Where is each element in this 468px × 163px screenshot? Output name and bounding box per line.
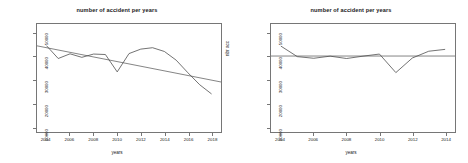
y-tick-mark (267, 128, 270, 129)
x-tick-label: 2010 (368, 137, 392, 142)
y-tick-mark (267, 104, 270, 105)
plot-area (270, 23, 456, 133)
y-tick-mark (267, 80, 270, 81)
y-tick-label: 20000 (278, 105, 283, 117)
x-tick-mark (280, 133, 281, 136)
left-chart-panel: number of accident per years nbr acc 100… (0, 0, 234, 163)
x-tick-label: 2012 (129, 137, 153, 142)
x-tick-mark (141, 133, 142, 136)
y-tick-mark (267, 33, 270, 34)
trend-line (37, 46, 221, 82)
x-tick-mark (165, 133, 166, 136)
x-tick-label: 2008 (81, 137, 105, 142)
y-tick-mark (33, 33, 36, 34)
x-tick-label: 2006 (301, 137, 325, 142)
x-tick-mark (212, 133, 213, 136)
x-tick-mark (380, 133, 381, 136)
y-tick-label: 30000 (44, 81, 49, 93)
x-tick-mark (93, 133, 94, 136)
x-tick-label: 2008 (334, 137, 358, 142)
y-tick-mark (33, 128, 36, 129)
x-tick-label: 2016 (177, 137, 201, 142)
y-tick-mark (33, 80, 36, 81)
x-tick-label: 2014 (153, 137, 177, 142)
x-tick-mark (69, 133, 70, 136)
y-tick-label: 40000 (44, 57, 49, 69)
x-tick-mark (46, 133, 47, 136)
x-axis-label: years (234, 150, 468, 155)
x-tick-label: 2006 (57, 137, 81, 142)
chart-title: number of accident per years (234, 7, 468, 13)
x-tick-label: 2012 (401, 137, 425, 142)
figure-canvas: number of accident per years nbr acc 100… (0, 0, 468, 163)
y-tick-label: 30000 (278, 81, 283, 93)
x-tick-label: 2014 (434, 137, 458, 142)
plot-lines (37, 24, 221, 132)
y-tick-label: 50000 (278, 33, 283, 45)
y-tick-mark (267, 56, 270, 57)
plot-lines (271, 24, 455, 132)
x-tick-mark (189, 133, 190, 136)
x-tick-mark (117, 133, 118, 136)
chart-title: number of accident per years (0, 7, 234, 13)
x-tick-label: 2004 (34, 137, 58, 142)
y-tick-mark (33, 56, 36, 57)
y-tick-label: 40000 (278, 57, 283, 69)
x-tick-label: 2018 (200, 137, 224, 142)
data-line (281, 46, 445, 73)
x-tick-label: 2004 (268, 137, 292, 142)
y-axis-label: nbr acc (225, 41, 230, 56)
right-chart-panel: number of accident per years nbr acc 100… (234, 0, 468, 163)
x-axis-label: years (0, 150, 234, 155)
x-tick-mark (413, 133, 414, 136)
y-tick-label: 50000 (44, 33, 49, 45)
x-tick-mark (313, 133, 314, 136)
y-tick-label: 20000 (44, 105, 49, 117)
x-tick-label: 2010 (105, 137, 129, 142)
y-tick-mark (33, 104, 36, 105)
x-tick-mark (346, 133, 347, 136)
plot-area (36, 23, 222, 133)
x-tick-mark (446, 133, 447, 136)
